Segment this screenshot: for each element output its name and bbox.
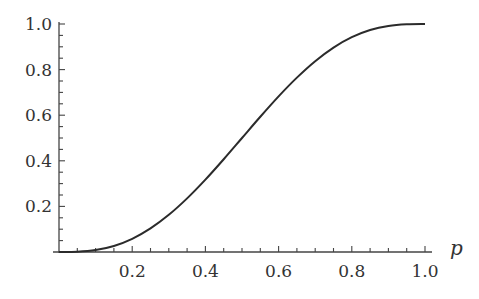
y-axis xyxy=(59,22,65,253)
data-curve xyxy=(59,24,425,252)
x-tick-labels: 0.20.40.60.81.0 xyxy=(119,261,439,281)
x-tick-label: 0.6 xyxy=(265,261,292,281)
chart: 0.20.40.60.81.0 0.20.40.60.81.0 p xyxy=(0,0,479,299)
y-tick-labels: 0.20.40.60.81.0 xyxy=(25,14,52,216)
x-tick-label: 0.4 xyxy=(192,261,219,281)
y-tick-label: 1.0 xyxy=(25,14,52,34)
y-tick-label: 0.4 xyxy=(25,151,52,171)
x-tick-label: 1.0 xyxy=(411,261,438,281)
x-tick-label: 0.8 xyxy=(338,261,365,281)
y-tick-label: 0.8 xyxy=(25,60,52,80)
y-tick-label: 0.6 xyxy=(25,105,52,125)
y-tick-label: 0.2 xyxy=(25,196,52,216)
x-tick-label: 0.2 xyxy=(119,261,146,281)
x-axis-label: p xyxy=(450,236,463,260)
